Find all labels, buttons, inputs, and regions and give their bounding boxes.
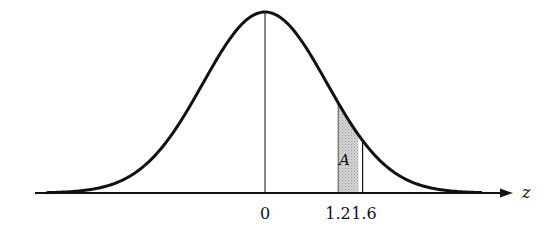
shaded-area-a (338, 103, 358, 193)
tick-label-0: 0 (260, 204, 270, 223)
normal-curve-diagram: A z 0 1.2 1.6 (0, 0, 550, 235)
tick-label-1-6: 1.6 (351, 204, 376, 223)
axis-label-z: z (521, 183, 531, 202)
normal-curve (47, 12, 481, 193)
tick-label-1-2: 1.2 (325, 204, 350, 223)
area-label: A (337, 151, 350, 169)
axis-arrow-icon (500, 189, 513, 198)
